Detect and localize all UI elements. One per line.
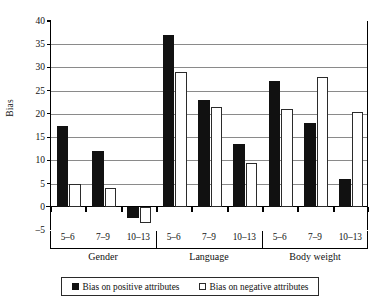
bar-positive (92, 151, 104, 207)
x-tick-mark (86, 207, 87, 212)
x-tick-label: 10–13 (339, 232, 362, 242)
x-tick-label: 5–6 (167, 232, 181, 242)
bar-negative (69, 184, 81, 207)
gridline (51, 67, 368, 68)
group-label: Gender (88, 251, 117, 262)
y-tick-label: 0 (40, 202, 45, 212)
group-label: Language (189, 251, 228, 262)
x-tick-label: 10–13 (127, 232, 150, 242)
x-tick-mark (192, 207, 193, 212)
y-tick-mark (47, 20, 52, 21)
plot-right-frame (367, 21, 368, 230)
y-tick-mark (47, 44, 52, 45)
y-tick-label: 30 (36, 62, 46, 72)
legend-item-positive: Bias on positive attributes (72, 282, 180, 292)
legend-item-negative: Bias on negative attributes (199, 282, 309, 292)
x-tick-mark (228, 207, 229, 212)
legend-swatch-filled-icon (72, 283, 79, 290)
legend-swatch-hollow-icon (199, 283, 206, 290)
bar-positive (339, 179, 351, 207)
bar-chart: Bias –50510152025303540 5–67–910–135–67–… (0, 0, 377, 306)
bar-negative (317, 77, 329, 207)
y-tick-label: 40 (36, 16, 46, 26)
y-tick-label: –5 (36, 225, 46, 235)
y-tick-mark (47, 67, 52, 68)
bar-positive (163, 35, 175, 207)
x-tick-mark (51, 207, 52, 212)
y-tick-mark (47, 137, 52, 138)
legend-label-negative: Bias on negative attributes (210, 282, 309, 292)
legend-label-positive: Bias on positive attributes (83, 282, 180, 292)
y-tick-label: 15 (36, 132, 46, 142)
x-tick-mark (298, 207, 299, 212)
chart-legend: Bias on positive attributes Bias on nega… (61, 277, 319, 296)
y-tick-mark (47, 183, 52, 184)
x-axis-divider (156, 231, 157, 248)
group-label: Body weight (289, 251, 340, 262)
x-tick-label: 5–6 (61, 232, 75, 242)
gridline (51, 44, 368, 45)
x-tick-label: 5–6 (273, 232, 287, 242)
bar-negative (211, 107, 223, 207)
plot-area: –50510152025303540 (50, 21, 368, 230)
bar-negative (175, 72, 187, 207)
y-tick-label: 25 (36, 86, 46, 96)
bar-positive (233, 144, 245, 207)
bar-positive (304, 123, 316, 207)
x-tick-label: 10–13 (233, 232, 256, 242)
x-tick-mark (368, 207, 369, 212)
x-axis-divider (50, 231, 51, 248)
y-tick-label: 10 (36, 155, 46, 165)
y-tick-mark (47, 113, 52, 114)
x-tick-label: 7–9 (308, 232, 322, 242)
bar-negative (246, 163, 258, 207)
bar-negative (140, 207, 152, 223)
bar-positive (57, 126, 69, 207)
bar-positive (127, 207, 139, 219)
x-axis-label-band: 5–67–910–135–67–910–135–67–910–13 (50, 231, 368, 249)
y-tick-mark (47, 90, 52, 91)
x-tick-label: 7–9 (96, 232, 110, 242)
y-axis-title: Bias (5, 85, 15, 131)
x-tick-mark (334, 207, 335, 212)
x-axis-divider (367, 231, 368, 248)
bar-positive (198, 100, 210, 207)
bar-negative (105, 188, 117, 207)
x-tick-mark (122, 207, 123, 212)
bar-negative (352, 112, 364, 207)
x-axis-divider (262, 231, 263, 248)
bar-negative (281, 109, 293, 207)
y-tick-mark (47, 160, 52, 161)
y-tick-label: 20 (36, 109, 46, 119)
y-tick-label: 5 (40, 179, 45, 189)
y-tick-label: 35 (36, 39, 46, 49)
x-tick-label: 7–9 (202, 232, 216, 242)
plot-inner: –50510152025303540 (51, 21, 368, 230)
bar-positive (269, 81, 281, 206)
x-tick-mark (157, 207, 158, 212)
x-tick-mark (263, 207, 264, 212)
